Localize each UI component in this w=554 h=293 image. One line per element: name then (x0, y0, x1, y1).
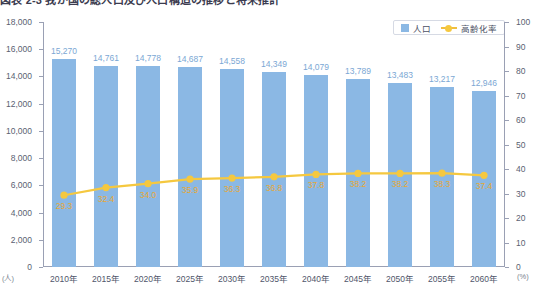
y-axis-left-tick-label: 0 (27, 262, 32, 272)
x-axis-tick-label: 2015年 (92, 272, 120, 284)
x-axis-tick-label: 2050年 (386, 272, 414, 284)
y-axis-left-tick-label: 8,000 (11, 153, 32, 163)
y-axis-right-tick-label: 90 (516, 42, 525, 52)
y-axis-left-tick-label: 2,000 (11, 235, 32, 245)
y-axis-left-tick-label: 14,000 (6, 71, 32, 81)
y-axis-left-tick-label: 18,000 (6, 17, 32, 27)
y-axis-right-tick-label: 80 (516, 66, 525, 76)
x-axis-labels: 2010年2015年2020年2025年2030年2035年2040年2045年… (43, 22, 505, 267)
y-axis-right-tick: 100 (505, 22, 509, 23)
y-axis-right-tick-label: 10 (516, 238, 525, 248)
x-axis-tick-label: 2010年 (50, 272, 78, 284)
x-axis-tick-label: 2030年 (218, 272, 246, 284)
y-axis-right-unit: (%) (517, 272, 529, 281)
y-axis-left-tick-label: 12,000 (6, 99, 32, 109)
x-axis-tick-label: 2035年 (260, 272, 288, 284)
chart-title-clipped: 図表 2-3 我が国の総人口及び人口構造の推移と将来推計 (0, 0, 330, 7)
y-axis-right-tick: 70 (505, 96, 509, 97)
x-axis-tick-label: 2025年 (176, 272, 204, 284)
y-axis-right-tick-label: 70 (516, 91, 525, 101)
y-axis-right-tick: 50 (505, 145, 509, 146)
x-axis-tick-label: 2040年 (302, 272, 330, 284)
y-axis-left-tick-label: 16,000 (6, 44, 32, 54)
y-axis-left-tick: 0 (39, 267, 43, 268)
page-title: 図表 2-3 我が国の総人口及び人口構造の推移と将来推計 (0, 0, 281, 7)
y-axis-left-tick-label: 6,000 (11, 180, 32, 190)
plot-area: 18,00016,00014,00012,00010,0008,0006,000… (43, 22, 505, 267)
y-axis-right-tick-label: 20 (516, 213, 525, 223)
y-axis-right-tick-label: 40 (516, 164, 525, 174)
x-axis-tick-label: 2060年 (470, 272, 498, 284)
y-axis-left-unit: (人) (2, 272, 14, 283)
x-axis-tick-label: 2045年 (344, 272, 372, 284)
y-axis-right-tick-label: 60 (516, 115, 525, 125)
y-axis-right-tick-label: 0 (516, 262, 521, 272)
y-axis-right-tick: 60 (505, 120, 509, 121)
y-axis-right-tick: 80 (505, 71, 509, 72)
y-axis-right-tick: 20 (505, 218, 509, 219)
y-axis-right-tick: 30 (505, 194, 509, 195)
y-axis-right-tick-label: 100 (516, 17, 530, 27)
y-axis-right-tick: 40 (505, 169, 509, 170)
y-axis-right-tick: 0 (505, 267, 509, 268)
y-axis-right-tick-label: 30 (516, 189, 525, 199)
x-axis-tick-label: 2055年 (428, 272, 456, 284)
y-axis-right-tick-label: 50 (516, 140, 525, 150)
y-axis-left-tick-label: 4,000 (11, 208, 32, 218)
chart-container: 図表 2-3 我が国の総人口及び人口構造の推移と将来推計 人口 高齢化率 18,… (0, 0, 554, 293)
y-axis-right-tick: 10 (505, 243, 509, 244)
y-axis-left-tick-label: 10,000 (6, 126, 32, 136)
y-axis-right-tick: 90 (505, 47, 509, 48)
x-axis-tick-label: 2020年 (134, 272, 162, 284)
